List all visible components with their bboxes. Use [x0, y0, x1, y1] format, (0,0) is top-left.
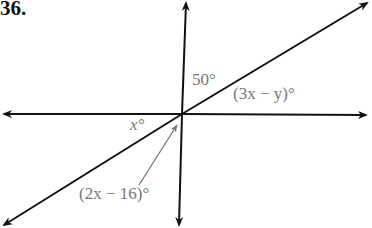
pointer-arrow: [139, 125, 177, 185]
angle-label-right: (3x − y)°: [233, 84, 295, 104]
intersecting-lines-diagram: [0, 0, 372, 228]
angle-label-bottom: (2x − 16)°: [79, 184, 149, 204]
angle-label-top: 50°: [192, 70, 216, 90]
angle-label-left: x°: [130, 115, 144, 135]
vertical-line: [182, 3, 186, 114]
